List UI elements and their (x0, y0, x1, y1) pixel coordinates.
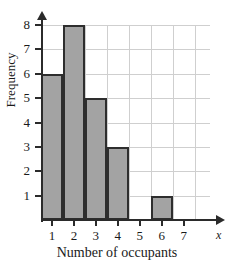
y-axis-tick-label: 2 (8, 164, 30, 177)
x-axis-tick-label: 4 (107, 229, 129, 242)
histogram-chart: 12345678 1234567 Frequency Number of occ… (0, 0, 234, 265)
gridline-vertical (195, 25, 196, 220)
y-axis-tick-label: 1 (8, 189, 30, 202)
histogram-bar (107, 147, 129, 220)
plot-area (41, 25, 210, 220)
x-axis-tick (117, 220, 119, 226)
x-axis-title: Number of occupants (0, 245, 234, 261)
x-axis-tick-label: 7 (173, 229, 195, 242)
histogram-bar (41, 74, 63, 220)
y-axis-tick-label: 3 (8, 140, 30, 153)
y-axis-tick (35, 24, 41, 26)
histogram-bar (151, 196, 173, 220)
y-axis-tick (35, 170, 41, 172)
x-axis-tick (51, 220, 53, 226)
x-axis-variable-name: x (216, 228, 221, 243)
y-axis-tick (35, 48, 41, 50)
x-axis-tick (161, 220, 163, 226)
x-axis-tick-label: 3 (85, 229, 107, 242)
y-axis-line (41, 18, 43, 222)
x-axis-line (41, 219, 219, 221)
y-axis-tick (35, 122, 41, 124)
y-axis-tick (35, 73, 41, 75)
x-axis-tick-label: 2 (63, 229, 85, 242)
y-axis-title: Frequency (3, 25, 19, 135)
gridline-vertical (129, 25, 130, 220)
x-axis-tick (139, 220, 141, 226)
x-axis-tick-label: 5 (129, 229, 151, 242)
histogram-bar (63, 25, 85, 220)
gridline-vertical (173, 25, 174, 220)
y-axis-tick (35, 97, 41, 99)
x-axis-arrow-icon (216, 215, 225, 225)
gridline-vertical (151, 25, 152, 220)
x-axis-tick (73, 220, 75, 226)
x-axis-tick (183, 220, 185, 226)
y-axis-tick (35, 146, 41, 148)
y-axis-arrow-icon (37, 11, 47, 20)
x-axis-tick-label: 1 (41, 229, 63, 242)
x-axis-tick (95, 220, 97, 226)
x-axis-tick-label: 6 (151, 229, 173, 242)
y-axis-tick (35, 195, 41, 197)
histogram-bar (85, 98, 107, 220)
